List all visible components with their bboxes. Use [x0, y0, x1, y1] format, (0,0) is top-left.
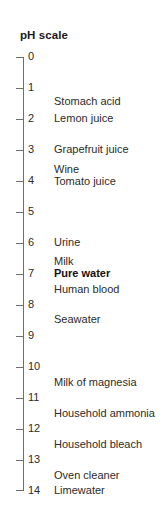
tick-mark [16, 305, 24, 306]
tick-mark [16, 150, 24, 151]
tick-mark [16, 398, 24, 399]
ph-value-2: 2 [28, 113, 34, 124]
substance-label: Stomach acid [54, 96, 121, 107]
substance-label: Household bleach [54, 439, 142, 450]
ph-value-5: 5 [28, 206, 34, 217]
tick-mark [16, 88, 24, 89]
ph-scale-figure: pH scale 01234567891011121314 Stomach ac… [0, 0, 163, 515]
ph-value-8: 8 [28, 299, 34, 310]
substance-label: Oven cleaner [54, 470, 119, 481]
tick-mark [16, 274, 24, 275]
tick-mark [16, 336, 24, 337]
page-title: pH scale [20, 29, 68, 41]
ph-value-9: 9 [28, 330, 34, 341]
substance-label: Seawater [54, 314, 100, 325]
tick-mark [16, 212, 24, 213]
tick-mark [16, 119, 24, 120]
ph-value-13: 13 [28, 454, 40, 465]
substance-label: Wine [54, 164, 79, 175]
substance-label: Household ammonia [54, 408, 155, 419]
tick-mark [16, 429, 24, 430]
ph-value-1: 1 [28, 82, 34, 93]
tick-mark [16, 367, 24, 368]
ph-value-10: 10 [28, 361, 40, 372]
ph-value-4: 4 [28, 175, 34, 186]
substance-label: Tomato juice [54, 176, 116, 187]
ph-value-3: 3 [28, 144, 34, 155]
ph-value-11: 11 [28, 392, 39, 403]
ph-value-12: 12 [28, 423, 40, 434]
substance-label: Lemon juice [54, 113, 113, 124]
substance-label: Milk [54, 256, 74, 267]
substance-label: Pure water [54, 268, 110, 279]
substance-label: Urine [54, 237, 80, 248]
substance-label: Grapefruit juice [54, 144, 129, 155]
substance-label: Human blood [54, 284, 119, 295]
substance-label: Milk of magnesia [54, 377, 137, 388]
tick-mark [16, 243, 24, 244]
tick-mark [16, 490, 24, 491]
tick-mark [16, 57, 24, 58]
ph-value-0: 0 [28, 51, 34, 62]
ph-value-6: 6 [28, 237, 34, 248]
tick-mark [16, 181, 24, 182]
ph-value-14: 14 [28, 485, 40, 496]
substance-label: Limewater [54, 485, 105, 496]
ph-value-7: 7 [28, 268, 34, 279]
tick-mark [16, 460, 24, 461]
